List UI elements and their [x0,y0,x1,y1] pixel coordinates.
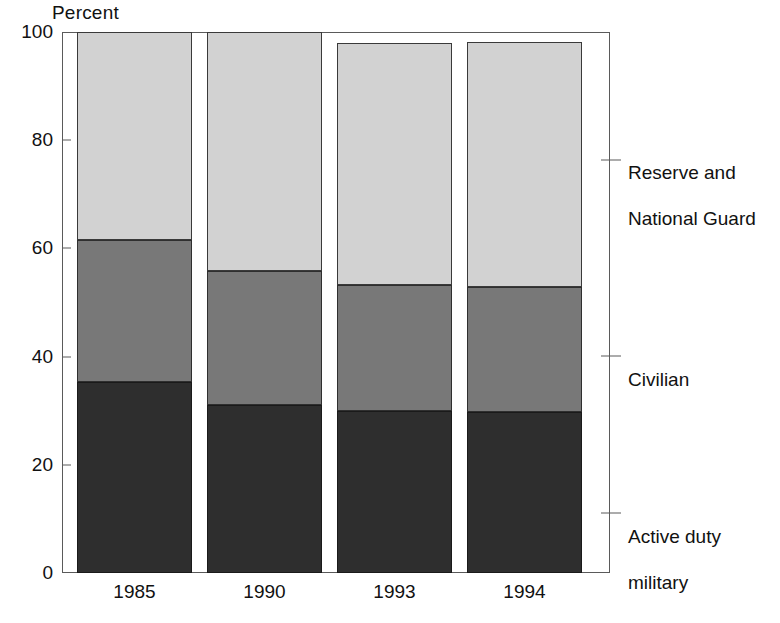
y-tick-label-80: 80 [0,129,62,151]
leader-line-reserve [601,160,621,161]
y-tick-label-40: 40 [0,346,62,368]
series-label-reserve: Reserve and National Guard [628,138,756,230]
segment-active-1994[interactable] [467,412,582,573]
series-label-active-line2: military [628,572,688,593]
x-tick-label-1994: 1994 [503,581,545,603]
y-tick-mark-40 [62,356,71,357]
bar-1993[interactable] [337,43,452,573]
series-label-civilian: Civilian [628,345,689,391]
series-label-civilian-text: Civilian [628,369,689,390]
y-tick-label-60: 60 [0,237,62,259]
segment-reserve-1985[interactable] [77,32,192,240]
y-tick-mark-60 [62,248,71,249]
y-tick-mark-20 [62,464,71,465]
bar-1985[interactable] [77,32,192,573]
segment-reserve-1994[interactable] [467,42,582,287]
x-tick-label-1990: 1990 [243,581,285,603]
y-tick-mark-80 [62,140,71,141]
series-label-active: Active duty military [628,502,721,594]
segment-civilian-1994[interactable] [467,287,582,411]
stacked-bar-chart: Percent 100 80 60 40 20 0 1985 1990 1993… [0,0,780,623]
y-axis-title: Percent [52,2,119,24]
x-tick-label-1993: 1993 [373,581,415,603]
segment-civilian-1993[interactable] [337,285,452,411]
y-tick-label-100: 100 [0,21,62,43]
y-tick-label-0: 0 [0,562,62,584]
leader-line-civilian [601,356,621,357]
x-tick-label-1985: 1985 [113,581,155,603]
series-label-active-line1: Active duty [628,526,721,547]
segment-active-1993[interactable] [337,411,452,574]
segment-civilian-1990[interactable] [207,271,322,405]
segment-active-1990[interactable] [207,405,322,573]
leader-line-active [601,513,621,514]
segment-active-1985[interactable] [77,382,192,573]
bar-1990[interactable] [207,32,322,573]
bar-1994[interactable] [467,42,582,573]
y-tick-label-20: 20 [0,454,62,476]
series-label-reserve-line1: Reserve and [628,162,736,183]
segment-reserve-1990[interactable] [207,32,322,271]
segment-civilian-1985[interactable] [77,240,192,382]
series-label-reserve-line2: National Guard [628,208,756,229]
segment-reserve-1993[interactable] [337,43,452,285]
